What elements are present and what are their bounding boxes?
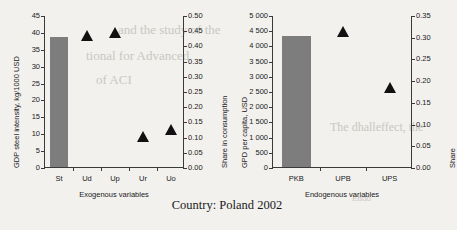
marker-Ud: [81, 30, 93, 41]
y-axis-tick-label: 5: [36, 147, 40, 155]
y-axis-tick: [269, 153, 273, 154]
y-axis-tick-label: 0: [264, 164, 268, 172]
y-axis-tick-label: 4 500: [249, 27, 268, 35]
y2-axis-tick: [411, 168, 415, 169]
y2-axis-tick-label: 0.25: [416, 55, 431, 63]
marker-UPS: [384, 82, 396, 93]
y-axis-tick-label: 20: [32, 96, 40, 104]
y2-axis-title-right: Share: [448, 148, 457, 168]
y2-axis-tick-label: 0.30: [416, 34, 431, 42]
y2-axis-tick: [183, 153, 187, 154]
y-axis-tick: [269, 92, 273, 93]
y-axis-tick: [41, 168, 45, 169]
y2-axis-tick-label: 0.05: [188, 149, 203, 157]
marker-Uo: [165, 124, 177, 135]
y2-axis-tick-label: 0.45: [188, 27, 203, 35]
y-axis-tick-label: 15: [32, 113, 40, 121]
y-axis-tick-label: 45: [32, 12, 40, 20]
y2-axis-tick: [411, 81, 415, 82]
y2-axis-tick-label: 0.15: [416, 99, 431, 107]
plot-area-right: 05001 0001 5002 0002 5003 0003 5004 0004…: [272, 16, 412, 168]
y2-axis-tick: [183, 138, 187, 139]
y2-axis-tick-label: 0.05: [416, 142, 431, 150]
y-axis-tick-label: 2 500: [249, 88, 268, 96]
y-axis-tick: [269, 138, 273, 139]
chart-panel-exogenous: 0510152025303540450.000.050.100.150.200.…: [0, 0, 227, 200]
x-axis-tick-label: UPS: [382, 174, 397, 183]
y-axis-tick: [269, 62, 273, 63]
y2-axis-tick-label: 0.15: [188, 118, 203, 126]
y-axis-tick: [269, 77, 273, 78]
y2-axis-tick-label: 0.30: [188, 73, 203, 81]
y2-axis-tick: [183, 46, 187, 47]
y-axis-tick: [269, 107, 273, 108]
y2-axis-tick: [411, 38, 415, 39]
plot-inner-right: 05001 0001 5002 0002 5003 0003 5004 0004…: [273, 16, 411, 167]
y2-axis-tick: [183, 168, 187, 169]
y2-axis-tick: [411, 16, 415, 17]
y-axis-tick: [269, 168, 273, 169]
y-axis-tick: [41, 33, 45, 34]
x-axis-tick-label: Ur: [139, 174, 147, 183]
y-axis-tick: [269, 122, 273, 123]
y2-axis-tick: [183, 16, 187, 17]
x-axis-tick-label: Up: [110, 174, 120, 183]
y2-axis-tick: [183, 62, 187, 63]
y2-axis-tick: [411, 125, 415, 126]
x-axis-tick: [129, 167, 130, 171]
y-axis-tick-label: 500: [255, 149, 268, 157]
y2-axis-tick: [411, 59, 415, 60]
x-axis-tick-label: Ud: [82, 174, 92, 183]
y2-axis-tick-label: 0.50: [188, 12, 203, 20]
x-axis-tick: [73, 167, 74, 171]
y2-axis-tick: [183, 31, 187, 32]
x-axis-tick: [320, 167, 321, 171]
x-axis-tick: [157, 167, 158, 171]
y-axis-title-left: GDP steel intensity, kg/1000 USD: [12, 56, 21, 168]
y2-axis-tick: [183, 77, 187, 78]
y-axis-tick: [41, 16, 45, 17]
chart-panel-endogenous: 05001 0001 5002 0002 5003 0003 5004 0004…: [227, 0, 454, 200]
figure-caption: Country: Poland 2002: [0, 198, 454, 213]
y-axis-tick: [41, 84, 45, 85]
y2-axis-tick-label: 0.25: [188, 88, 203, 96]
x-axis-tick-label: St: [55, 174, 62, 183]
y2-axis-tick: [183, 92, 187, 93]
y-axis-tick: [41, 134, 45, 135]
y-axis-tick: [41, 117, 45, 118]
y-axis-tick-label: 40: [32, 29, 40, 37]
y-axis-tick-label: 1 000: [249, 134, 268, 142]
y-axis-tick-label: 5 000: [249, 12, 268, 20]
y-axis-tick-label: 35: [32, 46, 40, 54]
y-axis-tick-label: 25: [32, 80, 40, 88]
y-axis-tick: [269, 16, 273, 17]
y2-axis-tick-label: 0.35: [188, 58, 203, 66]
y2-axis-tick-label: 0.35: [416, 12, 431, 20]
y-axis-tick: [269, 31, 273, 32]
marker-UPB: [337, 26, 349, 37]
y2-axis-tick: [411, 103, 415, 104]
y-axis-tick-label: 30: [32, 63, 40, 71]
y2-axis-tick-label: 0.10: [188, 134, 203, 142]
y-axis-tick: [269, 46, 273, 47]
y-axis-tick-label: 3 500: [249, 58, 268, 66]
y-axis-tick-label: 4 000: [249, 42, 268, 50]
x-axis-tick: [366, 167, 367, 171]
marker-Ur: [137, 131, 149, 142]
y2-axis-tick-label: 0.10: [416, 121, 431, 129]
x-axis-tick-label: PKB: [289, 174, 304, 183]
y-axis-tick-label: 3 000: [249, 73, 268, 81]
y-axis-tick: [41, 50, 45, 51]
bar-PKB: [282, 36, 311, 167]
x-axis-tick-label: UPB: [335, 174, 350, 183]
y-axis-tick: [41, 67, 45, 68]
y-axis-tick-label: 10: [32, 130, 40, 138]
y2-axis-tick-label: 0.20: [188, 103, 203, 111]
y-axis-tick-label: 2 000: [249, 103, 268, 111]
y2-axis-tick: [411, 146, 415, 147]
y2-axis-tick: [183, 107, 187, 108]
x-axis-tick-label: Uo: [166, 174, 176, 183]
plot-area-left: 0510152025303540450.000.050.100.150.200.…: [44, 16, 184, 168]
y2-axis-tick: [183, 122, 187, 123]
y2-axis-tick-label: 0.00: [416, 164, 431, 172]
